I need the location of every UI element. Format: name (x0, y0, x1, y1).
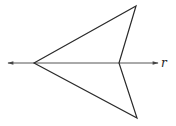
diagram-canvas: r (0, 0, 176, 126)
dart-quadrilateral (34, 6, 137, 118)
line-r-label: r (161, 56, 168, 70)
